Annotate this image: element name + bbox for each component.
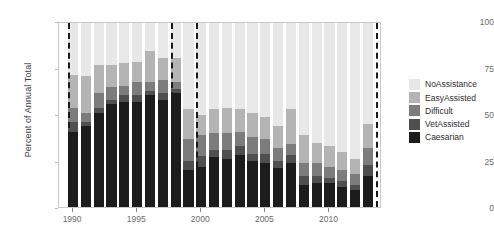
x-tick-mark bbox=[200, 208, 201, 212]
bar-segment-difficult bbox=[350, 174, 360, 185]
bar-segment-difficult bbox=[324, 167, 334, 178]
bar-2002 bbox=[222, 23, 232, 207]
bar-segment-easyassisted bbox=[312, 143, 322, 163]
x-tick-mark bbox=[136, 208, 137, 212]
legend-item-vetassisted[interactable]: VetAssisted bbox=[409, 118, 477, 131]
bar-segment-easyassisted bbox=[350, 159, 360, 174]
bar-segment-noassistance bbox=[324, 23, 334, 146]
bar-2013 bbox=[363, 23, 373, 207]
bar-segment-vetassisted bbox=[363, 165, 373, 176]
bar-segment-easyassisted bbox=[260, 117, 270, 139]
plot-area bbox=[58, 22, 381, 208]
x-tick-label: 2010 bbox=[319, 214, 338, 224]
bar-1995 bbox=[132, 23, 142, 207]
bar-segment-difficult bbox=[363, 148, 373, 165]
bar-segment-caesarian bbox=[158, 100, 168, 207]
legend-item-caesarian[interactable]: Caesarian bbox=[409, 131, 477, 144]
legend-item-difficult[interactable]: Difficult bbox=[409, 104, 477, 117]
bar-segment-caesarian bbox=[132, 102, 142, 207]
bar-segment-easyassisted bbox=[145, 51, 155, 82]
bar-segment-caesarian bbox=[235, 155, 245, 207]
bar-segment-caesarian bbox=[299, 185, 309, 207]
bar-segment-difficult bbox=[299, 163, 309, 176]
bar-segment-easyassisted bbox=[235, 109, 245, 131]
bar-segment-difficult bbox=[260, 139, 270, 154]
bar-segment-difficult bbox=[247, 137, 257, 154]
bar-2004 bbox=[247, 23, 257, 207]
bar-2005 bbox=[260, 23, 270, 207]
x-tick-mark bbox=[264, 208, 265, 212]
vline-3 bbox=[196, 23, 198, 207]
bar-segment-noassistance bbox=[183, 23, 193, 109]
bar-segment-caesarian bbox=[81, 126, 91, 207]
x-tick-label: 1990 bbox=[63, 214, 82, 224]
bar-segment-noassistance bbox=[209, 23, 219, 109]
bar-2003 bbox=[235, 23, 245, 207]
bar-segment-noassistance bbox=[81, 23, 91, 76]
bar-segment-difficult bbox=[273, 148, 283, 161]
bar-segment-easyassisted bbox=[119, 63, 129, 85]
legend-label: EasyAssisted bbox=[425, 94, 476, 103]
bar-segment-difficult bbox=[222, 133, 232, 150]
y-tick-label: 0 bbox=[462, 203, 494, 213]
x-tick-label: 1995 bbox=[127, 214, 146, 224]
y-tick-label: 75 bbox=[462, 64, 494, 74]
bar-segment-caesarian bbox=[363, 176, 373, 207]
bar-segment-easyassisted bbox=[158, 58, 168, 80]
bar-segment-easyassisted bbox=[363, 124, 373, 148]
bar-segment-caesarian bbox=[94, 113, 104, 207]
bar-segment-vetassisted bbox=[247, 154, 257, 161]
bar-segment-noassistance bbox=[286, 23, 296, 109]
vline-4 bbox=[376, 23, 378, 207]
bar-segment-noassistance bbox=[222, 23, 232, 108]
bar-segment-difficult bbox=[312, 163, 322, 176]
bar-segment-easyassisted bbox=[286, 109, 296, 144]
bar-segment-vetassisted bbox=[183, 161, 193, 170]
bar-segment-noassistance bbox=[119, 23, 129, 63]
bar-segment-noassistance bbox=[260, 23, 270, 117]
bar-segment-difficult bbox=[209, 133, 219, 150]
legend-swatch-icon bbox=[409, 132, 420, 143]
legend-label: VetAssisted bbox=[425, 120, 469, 129]
y-tick-label: 100 bbox=[462, 17, 494, 27]
bar-segment-easyassisted bbox=[222, 108, 232, 134]
bar-2007 bbox=[286, 23, 296, 207]
bar-segment-caesarian bbox=[106, 104, 116, 207]
bar-segment-vetassisted bbox=[132, 95, 142, 102]
bar-segment-easyassisted bbox=[132, 62, 142, 82]
bar-segment-noassistance bbox=[235, 23, 245, 109]
bar-segment-noassistance bbox=[145, 23, 155, 51]
bar-segment-caesarian bbox=[209, 157, 219, 207]
bar-segment-vetassisted bbox=[312, 176, 322, 183]
bar-segment-caesarian bbox=[247, 161, 257, 207]
bar-segment-vetassisted bbox=[119, 95, 129, 102]
legend-item-easyassisted[interactable]: EasyAssisted bbox=[409, 91, 477, 104]
legend-item-noassistance[interactable]: NoAssistance bbox=[409, 78, 477, 91]
bar-segment-vetassisted bbox=[286, 155, 296, 162]
x-tick-mark bbox=[328, 208, 329, 212]
bar-2006 bbox=[273, 23, 283, 207]
bar-segment-difficult bbox=[337, 170, 347, 181]
bar-2009 bbox=[312, 23, 322, 207]
y-tick-mark bbox=[55, 208, 58, 209]
bar-segment-vetassisted bbox=[222, 150, 232, 159]
bar-segment-noassistance bbox=[273, 23, 283, 126]
bar-segment-vetassisted bbox=[158, 93, 168, 100]
bar-1992 bbox=[94, 23, 104, 207]
legend-label: NoAssistance bbox=[425, 80, 477, 89]
legend: NoAssistanceEasyAssistedDifficultVetAssi… bbox=[409, 78, 477, 144]
bar-segment-easyassisted bbox=[247, 113, 257, 137]
vline-2 bbox=[171, 23, 173, 207]
bar-segment-difficult bbox=[106, 87, 116, 100]
bar-segment-easyassisted bbox=[81, 76, 91, 113]
bar-segment-easyassisted bbox=[106, 65, 116, 87]
vline-1 bbox=[68, 23, 70, 207]
x-tick-label: 2005 bbox=[255, 214, 274, 224]
y-tick-label: 25 bbox=[462, 157, 494, 167]
bar-1996 bbox=[145, 23, 155, 207]
bar-segment-difficult bbox=[81, 113, 91, 122]
bar-segment-noassistance bbox=[94, 23, 104, 65]
chart-figure: Percent of Annual Total 0255075100 19901… bbox=[0, 0, 494, 245]
bar-segment-easyassisted bbox=[209, 109, 219, 133]
bar-segment-vetassisted bbox=[299, 176, 309, 185]
